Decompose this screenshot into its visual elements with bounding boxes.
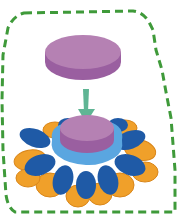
diagram-canvas <box>0 0 187 219</box>
docked-disc <box>60 115 114 153</box>
ligand-disc <box>45 35 121 80</box>
